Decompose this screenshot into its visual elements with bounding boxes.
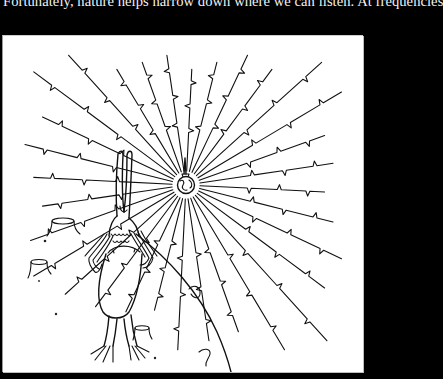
signal-ray xyxy=(155,199,183,311)
planet-surface xyxy=(136,234,231,372)
stumps xyxy=(28,218,152,340)
signal-rays xyxy=(25,55,341,349)
signal-ray xyxy=(199,191,342,259)
signal-ray xyxy=(34,173,172,185)
signal-ray xyxy=(200,188,333,222)
signal-ray xyxy=(43,117,174,179)
signal-ray xyxy=(189,62,216,171)
illustration-frame xyxy=(2,35,363,372)
body-text-line: Fortunately, nature helps narrow down wh… xyxy=(3,0,387,10)
signal-illustration xyxy=(3,36,363,372)
signal-ray xyxy=(117,69,179,173)
signal-ray xyxy=(185,69,196,171)
signal-ray xyxy=(200,185,325,196)
signal-ray xyxy=(34,72,175,177)
signal-ray xyxy=(197,193,324,288)
stump-bottom xyxy=(133,326,152,340)
stump-far-left xyxy=(28,260,51,279)
signal-ray xyxy=(25,145,172,182)
